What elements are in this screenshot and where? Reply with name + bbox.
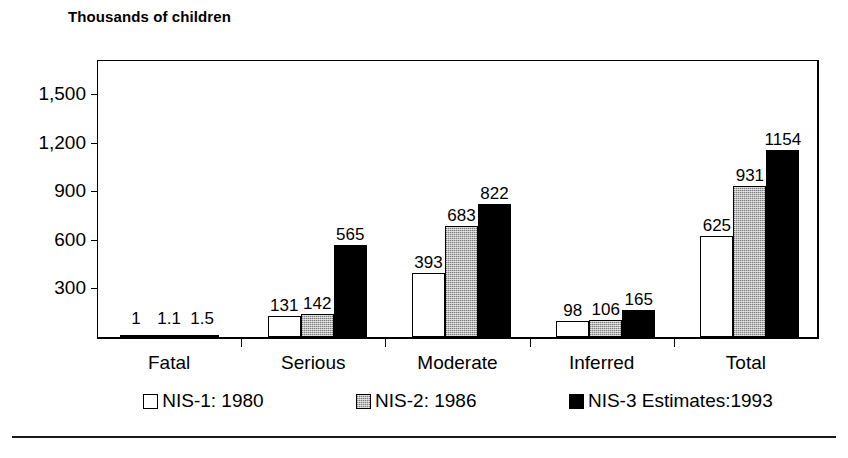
bar-total-series1 [700, 236, 733, 337]
x-axis-tick [385, 338, 386, 347]
bar-inferred-series2 [589, 320, 622, 337]
y-axis-tick [91, 94, 98, 95]
bar-total-series3 [766, 150, 799, 337]
bar-value-label: 165 [615, 291, 662, 308]
bar-fatal-series2 [153, 335, 186, 337]
bar-total-series2 [733, 186, 766, 337]
legend-item-3[interactable]: NIS-3 Estimates:1993 [569, 390, 773, 412]
x-axis-category-label-total: Total [674, 352, 818, 374]
bar-moderate-series1 [412, 273, 445, 337]
legend-swatch-icon [569, 394, 584, 409]
legend-item-2[interactable]: NIS-2: 1986 [356, 390, 476, 412]
y-axis-tick-label: 900 [18, 181, 86, 200]
bar-inferred-series1 [556, 321, 589, 337]
x-axis-category-label-inferred: Inferred [530, 352, 674, 374]
y-axis-tick-label-wrap: 1,200 [0, 133, 86, 152]
y-axis-tick [91, 288, 98, 289]
y-axis-tick-label-wrap: 1,500 [0, 84, 86, 103]
y-axis-tick-label-wrap: 300 [0, 278, 86, 297]
y-axis-tick [91, 191, 98, 192]
chart-legend: NIS-1: 1980NIS-2: 1986NIS-3 Estimates:19… [97, 388, 819, 414]
x-axis-tick [530, 338, 531, 347]
legend-swatch-icon [356, 394, 371, 409]
y-axis-line [97, 60, 98, 339]
bar-serious-series3 [334, 245, 367, 337]
bar-value-label: 822 [471, 185, 518, 202]
bar-serious-series2 [301, 314, 334, 337]
bar-inferred-series3 [622, 310, 655, 337]
legend-item-1[interactable]: NIS-1: 1980 [143, 390, 263, 412]
x-axis-line [97, 337, 819, 339]
x-axis-tick [241, 338, 242, 347]
x-axis-tick [674, 338, 675, 347]
y-axis-tick-label: 600 [18, 230, 86, 249]
legend-swatch-icon [143, 394, 158, 409]
x-axis-category-label-serious: Serious [241, 352, 385, 374]
bar-moderate-series2 [445, 226, 478, 337]
y-axis-tick-label: 1,200 [18, 133, 86, 152]
x-axis-category-label-moderate: Moderate [385, 352, 529, 374]
bar-serious-series1 [268, 316, 301, 337]
x-axis-category-label-fatal: Fatal [97, 352, 241, 374]
y-axis-tick [91, 143, 98, 144]
y-axis-tick-label: 1,500 [18, 84, 86, 103]
chart-figure: Thousands of children 3006009001,2001,50… [0, 0, 848, 458]
bar-fatal-series3 [186, 335, 219, 337]
bar-value-label: 1.5 [179, 310, 226, 327]
y-axis-tick-label-wrap: 600 [0, 230, 86, 249]
legend-label: NIS-2: 1986 [375, 390, 476, 412]
legend-label: NIS-1: 1980 [162, 390, 263, 412]
bar-moderate-series3 [478, 204, 511, 337]
bar-value-label: 1154 [759, 131, 806, 148]
y-axis-tick-label: 300 [18, 278, 86, 297]
plot-right-border [818, 60, 819, 338]
plot-top-border [97, 60, 819, 61]
y-axis-tick-label-wrap: 900 [0, 181, 86, 200]
bar-fatal-series1 [120, 335, 153, 337]
chart-axis-title: Thousands of children [68, 8, 231, 25]
y-axis-tick [91, 240, 98, 241]
bar-value-label: 565 [327, 226, 374, 243]
legend-label: NIS-3 Estimates:1993 [588, 390, 773, 412]
bottom-divider-rule [12, 436, 836, 438]
